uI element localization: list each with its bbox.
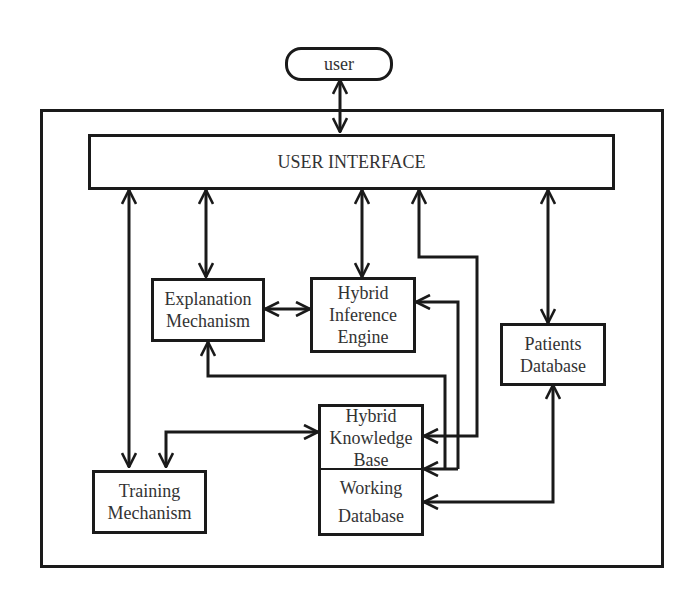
node-inference-line1: Hybrid <box>338 282 389 304</box>
node-working-line2: Database <box>338 502 404 530</box>
node-inference-line2: Inference <box>329 304 397 326</box>
node-user: user <box>285 47 393 81</box>
node-explanation-mechanism: Explanation Mechanism <box>151 278 265 342</box>
node-hybrid-inference-engine: Hybrid Inference Engine <box>310 277 416 353</box>
node-inference-line3: Engine <box>338 326 389 348</box>
node-user-label: user <box>324 53 354 75</box>
node-ui-label: USER INTERFACE <box>277 151 425 173</box>
node-training-mechanism: Training Mechanism <box>92 470 207 534</box>
node-knowledge-line2: Knowledge <box>330 427 413 449</box>
node-hybrid-knowledge-base: Hybrid Knowledge Base <box>318 404 424 472</box>
node-patients-database: Patients Database <box>500 323 606 386</box>
node-training-line2: Mechanism <box>108 502 192 524</box>
node-patients-line1: Patients <box>525 333 582 355</box>
node-explanation-line1: Explanation <box>165 288 252 310</box>
node-working-database: Working Database <box>318 470 424 536</box>
node-knowledge-line3: Base <box>354 449 389 471</box>
node-training-line1: Training <box>119 480 180 502</box>
node-patients-line2: Database <box>520 355 586 377</box>
node-knowledge-line1: Hybrid <box>346 405 397 427</box>
node-working-line1: Working <box>340 474 403 502</box>
node-user-interface: USER INTERFACE <box>88 134 615 190</box>
node-explanation-line2: Mechanism <box>166 310 250 332</box>
